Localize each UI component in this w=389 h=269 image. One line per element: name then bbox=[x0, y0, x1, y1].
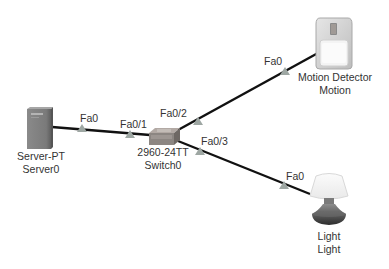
device-label-motion: Motion Detector Motion bbox=[298, 71, 372, 97]
port-label-switch0-fa0-3: Fa0/3 bbox=[201, 135, 228, 147]
device-label-light: Light Light bbox=[318, 230, 341, 256]
port-label-light-fa0: Fa0 bbox=[286, 170, 304, 182]
topology-canvas[interactable]: Fa0 Fa0/1 Fa0/2 Fa0 Fa0/3 Fa0 Server-PT … bbox=[0, 0, 389, 269]
device-name: Server0 bbox=[17, 163, 65, 176]
server-icon bbox=[27, 107, 53, 149]
link-switch0-light[interactable] bbox=[178, 141, 310, 194]
switch-icon bbox=[147, 127, 181, 146]
device-switch0[interactable] bbox=[147, 127, 181, 146]
device-name: Light bbox=[318, 243, 341, 256]
device-name: Switch0 bbox=[137, 159, 188, 172]
device-model: Motion Detector bbox=[298, 71, 372, 84]
light-icon bbox=[306, 172, 352, 228]
device-server0[interactable] bbox=[27, 107, 53, 149]
port-label-switch0-fa0-2: Fa0/2 bbox=[160, 107, 187, 119]
device-model: 2960-24TT bbox=[137, 146, 188, 159]
port-label-switch0-fa0-1: Fa0/1 bbox=[120, 118, 147, 130]
motion-detector-icon bbox=[314, 16, 354, 70]
device-label-switch0: 2960-24TT Switch0 bbox=[137, 146, 188, 172]
device-motion[interactable] bbox=[314, 16, 354, 70]
port-label-motion-fa0: Fa0 bbox=[264, 55, 282, 67]
port-label-server0-fa0: Fa0 bbox=[80, 112, 98, 124]
device-light[interactable] bbox=[306, 172, 352, 228]
device-name: Motion bbox=[298, 84, 372, 97]
device-model: Server-PT bbox=[17, 150, 65, 163]
device-model: Light bbox=[318, 230, 341, 243]
device-label-server0: Server-PT Server0 bbox=[17, 150, 65, 176]
